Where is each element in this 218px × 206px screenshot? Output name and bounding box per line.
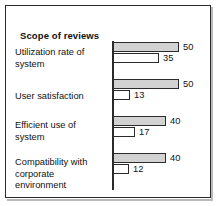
bar-value-label: 13 — [134, 90, 144, 100]
bar-white — [113, 164, 129, 174]
category-label: Efficient use ofsystem — [15, 120, 111, 143]
bar-value-label: 35 — [163, 53, 173, 63]
category-label-line: User satisfaction — [15, 91, 111, 103]
bar-gray — [113, 79, 179, 89]
bar-white — [113, 90, 130, 100]
bar-white — [113, 127, 135, 137]
category-label-line: system — [15, 59, 111, 71]
category-label: Compatibility withcorporateenvironment — [15, 157, 111, 192]
category-label-line: Utilization rate of — [15, 47, 111, 59]
bar-value-label: 50 — [183, 79, 193, 89]
category-label-line: Compatibility with — [15, 157, 111, 169]
bar-gray — [113, 42, 179, 52]
bar-gray — [113, 116, 166, 126]
bar-value-label: 50 — [183, 42, 193, 52]
category-label-line: Efficient use of — [15, 120, 111, 132]
bar-value-label: 40 — [170, 153, 180, 163]
bar-value-label: 40 — [170, 116, 180, 126]
category-label-line: system — [15, 132, 111, 144]
plot-area: Utilization rate ofsystem5035User satisf… — [6, 6, 212, 199]
chart-screenshot: Scope of reviews Utilization rate ofsyst… — [0, 0, 218, 206]
category-label-line: environment — [15, 180, 111, 192]
category-label: User satisfaction — [15, 91, 111, 103]
frame-shadow-bottom — [7, 199, 213, 201]
category-label: Utilization rate ofsystem — [15, 47, 111, 70]
bar-value-label: 12 — [133, 164, 143, 174]
chart-frame: Scope of reviews Utilization rate ofsyst… — [5, 5, 211, 198]
bar-gray — [113, 153, 166, 163]
bar-value-label: 17 — [139, 127, 149, 137]
category-label-line: corporate — [15, 169, 111, 181]
bar-white — [113, 53, 159, 63]
